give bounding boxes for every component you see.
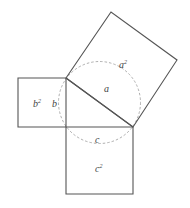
square-b2 xyxy=(18,78,66,127)
label-area-c2: c2 xyxy=(95,163,102,174)
pythagoras-diagram: a b c a2 b2 c2 xyxy=(0,0,190,208)
label-side-b: b xyxy=(52,98,57,109)
label-side-a: a xyxy=(104,83,109,94)
label-area-c2-exp: 2 xyxy=(99,163,102,169)
square-c2 xyxy=(66,127,133,194)
label-side-c: c xyxy=(95,134,100,145)
label-area-a2-exp: 2 xyxy=(124,59,127,65)
label-area-b2: b2 xyxy=(33,98,41,109)
triangle-hypotenuse xyxy=(66,78,133,127)
label-area-b2-exp: 2 xyxy=(38,98,41,104)
label-area-a2: a2 xyxy=(119,59,127,70)
